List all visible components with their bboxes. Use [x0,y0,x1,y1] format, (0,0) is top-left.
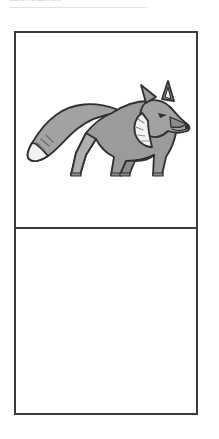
puzzle-panel-bottom: ? [16,229,196,413]
page-header: cut-off header line [0,0,219,14]
analogy-puzzle-frame: ? [14,31,198,415]
header-divider [10,7,147,8]
fox-icon [20,77,192,187]
header-title: cut-off header line [10,0,62,2]
puzzle-panel-top [16,33,196,229]
